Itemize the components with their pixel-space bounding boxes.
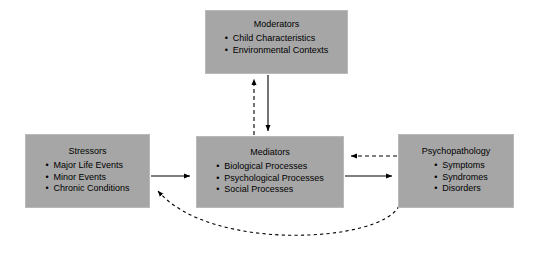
list-item: Biological Processes <box>216 161 324 173</box>
node-mediators-title: Mediators <box>197 146 343 158</box>
list-item: Psychological Processes <box>216 173 324 185</box>
node-psychopathology: Psychopathology Symptoms Syndromes Disor… <box>398 134 514 208</box>
node-mediators-inner: Mediators Biological Processes Psycholog… <box>197 146 343 196</box>
list-item: Symptoms <box>434 160 488 172</box>
list-item: Chronic Conditions <box>45 183 129 195</box>
node-stressors-inner: Stressors Major Life Events Minor Events… <box>26 145 149 195</box>
list-item: Child Characteristics <box>225 33 329 45</box>
diagram-canvas: Moderators Child Characteristics Environ… <box>0 0 535 261</box>
node-moderators-inner: Moderators Child Characteristics Environ… <box>206 18 347 57</box>
node-moderators-items: Child Characteristics Environmental Cont… <box>225 33 329 56</box>
node-moderators: Moderators Child Characteristics Environ… <box>205 10 348 74</box>
list-item: Minor Events <box>45 172 129 184</box>
list-item: Syndromes <box>434 172 488 184</box>
node-mediators: Mediators Biological Processes Psycholog… <box>196 136 344 208</box>
node-moderators-title: Moderators <box>206 18 347 30</box>
node-psychopathology-items: Symptoms Syndromes Disorders <box>434 160 488 195</box>
list-item: Environmental Contexts <box>225 45 329 57</box>
list-item: Major Life Events <box>45 160 129 172</box>
node-stressors-items: Major Life Events Minor Events Chronic C… <box>45 160 129 195</box>
node-psychopathology-inner: Psychopathology Symptoms Syndromes Disor… <box>399 145 513 195</box>
node-mediators-items: Biological Processes Psychological Proce… <box>216 161 324 196</box>
node-psychopathology-title: Psychopathology <box>399 145 513 157</box>
list-item: Social Processes <box>216 184 324 196</box>
node-stressors-title: Stressors <box>26 145 149 157</box>
node-stressors: Stressors Major Life Events Minor Events… <box>25 134 150 208</box>
list-item: Disorders <box>434 183 488 195</box>
